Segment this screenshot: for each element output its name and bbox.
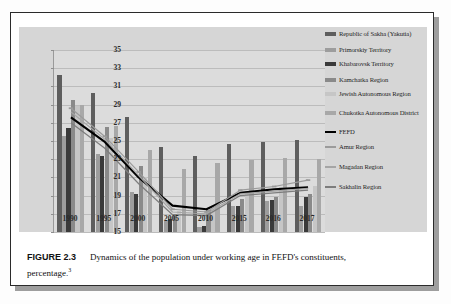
legend-line-swatch — [325, 186, 336, 188]
plot-area — [53, 50, 325, 232]
series-marker — [136, 171, 140, 173]
legend-line-swatch — [325, 166, 336, 168]
caption-line-1: Dynamics of the population under working… — [90, 252, 346, 262]
y-tick-label: 31 — [95, 82, 121, 90]
x-tick-label: 2010 — [189, 214, 223, 223]
legend-item-label: Jewish Autonomous Region — [339, 90, 411, 98]
y-tick-label: 29 — [95, 101, 121, 109]
x-tick-label: 2017 — [290, 214, 324, 223]
figure-label: FIGURE 2.3 — [27, 252, 76, 262]
y-tick-label: 25 — [95, 137, 121, 145]
legend-item: Primorskiy Territory — [325, 46, 425, 54]
series-marker — [272, 186, 276, 188]
legend-item: Sakhalin Region — [325, 183, 425, 191]
y-tick-label: 27 — [95, 119, 121, 127]
footnote-marker: 3 — [68, 267, 71, 273]
chart: 1517192123252729313335 19901995200020052… — [19, 27, 427, 239]
legend-color-swatch — [325, 92, 336, 96]
y-tick-label: 33 — [95, 64, 121, 72]
caption-line-2: percentage. — [27, 268, 68, 278]
x-tick-label: 1995 — [87, 214, 121, 223]
legend-item: Amur Region — [325, 143, 425, 151]
legend-line-swatch — [325, 146, 336, 148]
legend-item-label: Khabarovsk Territory — [339, 60, 394, 68]
x-tick-label: 2016 — [256, 214, 290, 223]
legend-item: Kamchatka Region — [325, 76, 425, 84]
legend-item-label: Sakhalin Region — [339, 183, 381, 191]
y-tick-label: 15 — [95, 228, 121, 236]
figure-page: 1517192123252729313335 19901995200020052… — [0, 0, 451, 304]
legend-color-swatch — [325, 78, 336, 82]
legend-item-label: Primorskiy Territory — [339, 46, 391, 54]
legend-item-label: Amur Region — [339, 143, 374, 151]
figure-caption: FIGURE 2.3Dynamics of the population und… — [27, 251, 419, 279]
legend-item: Magadan Region — [325, 163, 425, 171]
series-marker — [238, 189, 242, 191]
y-tick-label: 19 — [95, 192, 121, 200]
y-tick-label: 35 — [95, 46, 121, 54]
legend-color-swatch — [325, 48, 336, 52]
legend-item: Chukotka Autonomous District — [325, 109, 425, 117]
x-tick-label: 1990 — [53, 214, 87, 223]
y-tick-label: 23 — [95, 155, 121, 163]
legend-item: Republic of Sakha (Yakutia) — [325, 30, 425, 38]
legend-item-label: Republic of Sakha (Yakutia) — [339, 30, 411, 38]
legend-line-swatch — [325, 131, 336, 133]
y-tick-label: 21 — [95, 173, 121, 181]
chart-legend: Republic of Sakha (Yakutia)Primorskiy Te… — [325, 27, 427, 232]
legend-item: FEFD — [325, 128, 425, 136]
legend-item-label: Magadan Region — [339, 163, 383, 171]
legend-color-swatch — [325, 62, 336, 66]
series-marker — [69, 107, 73, 109]
legend-item: Khabarovsk Territory — [325, 60, 425, 68]
legend-item-label: Kamchatka Region — [339, 76, 388, 84]
series-marker — [306, 179, 310, 181]
legend-item-label: FEFD — [339, 128, 355, 136]
legend-color-swatch — [325, 111, 336, 115]
y-tick-mark — [51, 232, 54, 233]
legend-color-swatch — [325, 32, 336, 36]
x-tick-label: 2000 — [121, 214, 155, 223]
legend-item: Jewish Autonomous Region — [325, 90, 425, 98]
x-tick-label: 2005 — [155, 214, 189, 223]
x-tick-label: 2015 — [222, 214, 256, 223]
figure-frame: 1517192123252729313335 19901995200020052… — [10, 12, 434, 286]
legend-item-label: Chukotka Autonomous District — [339, 109, 419, 117]
